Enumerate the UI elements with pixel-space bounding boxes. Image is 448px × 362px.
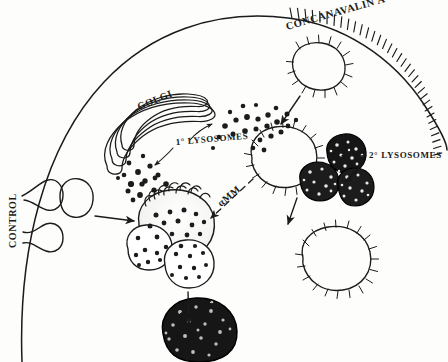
spiky-vesicle-lower-right <box>296 220 379 299</box>
secondary-lysosome-dark-2 <box>300 162 339 201</box>
label-primary-lysosomes: 1° LYSOSOMES <box>175 131 248 147</box>
arrow-control-to-cell <box>95 216 134 221</box>
label-golgi: GOLGI <box>136 88 174 112</box>
residual-body <box>162 298 237 362</box>
coated-endocytic-vesicle-top <box>287 35 354 98</box>
label-amm: αMM <box>215 183 242 208</box>
label-concanavalin-a: CONCANAVALIN A <box>285 0 387 32</box>
label-secondary-lysosomes: 2° LYSOSOMES <box>369 150 442 160</box>
secondary-lysosome-dark-3 <box>338 168 374 206</box>
stippled-phagosome <box>127 183 214 288</box>
con-a-spikes <box>290 8 442 155</box>
control-invagination-vesicle <box>60 179 93 218</box>
arrow-primary-lysosome-left <box>155 148 173 165</box>
diagram-canvas: CONCANAVALIN A GOLGI 1° LYSOSOMES 2° LYS… <box>0 0 448 362</box>
diagram-svg: CONCANAVALIN A GOLGI 1° LYSOSOMES 2° LYS… <box>0 0 448 362</box>
primary-lysosome-dots <box>116 103 298 216</box>
label-control: CONTROL <box>7 193 18 248</box>
arrow-vesicle-to-lower-right <box>288 198 297 224</box>
